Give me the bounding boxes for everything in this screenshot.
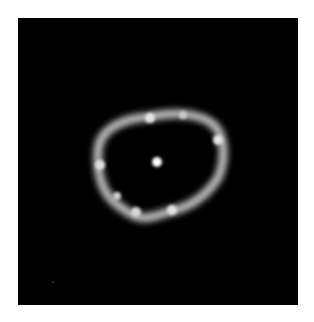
ring-image (0, 0, 314, 322)
einstein-ring (98, 114, 223, 218)
faint-speck (52, 281, 54, 283)
central-source (152, 157, 162, 167)
